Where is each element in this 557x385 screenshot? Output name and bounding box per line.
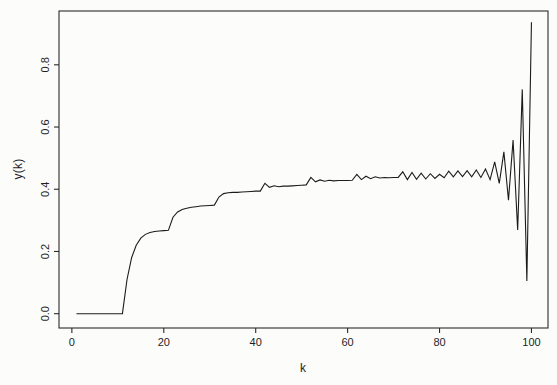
x-tick-label: 20 [158, 336, 170, 348]
r-line-plot-figure: 0204060801000.00.20.40.60.8 k y(k) [0, 0, 557, 385]
x-tick-label: 40 [250, 336, 262, 348]
data-series-line [76, 22, 531, 313]
plot-box [59, 11, 548, 328]
y-tick-label: 0.4 [39, 182, 51, 197]
x-tick-label: 80 [433, 336, 445, 348]
x-axis-label: k [300, 361, 306, 375]
plot-canvas: 0204060801000.00.20.40.60.8 [0, 0, 557, 385]
y-tick-label: 0.2 [39, 244, 51, 259]
y-tick-label: 0.0 [39, 306, 51, 321]
x-tick-label: 60 [341, 336, 353, 348]
y-axis-label: y(k) [11, 159, 25, 180]
x-tick-label: 0 [69, 336, 75, 348]
x-tick-label: 100 [522, 336, 540, 348]
y-tick-label: 0.8 [39, 57, 51, 72]
y-tick-label: 0.6 [39, 119, 51, 134]
